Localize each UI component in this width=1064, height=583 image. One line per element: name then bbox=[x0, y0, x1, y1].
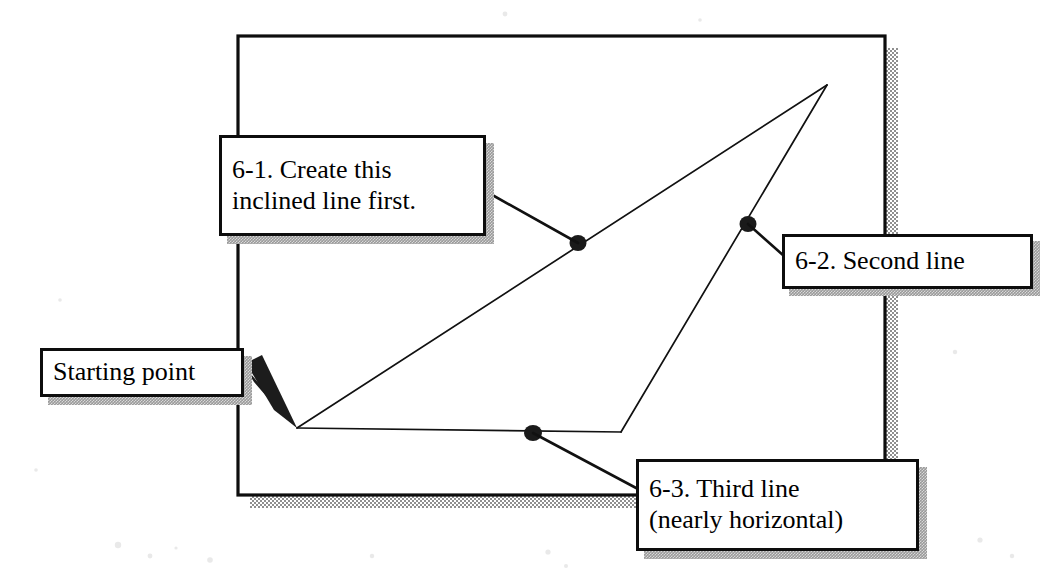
callout-leader-lines bbox=[487, 192, 784, 489]
callout-6-3: 6-3. Third line (nearly horizontal) bbox=[636, 459, 919, 551]
diagram-canvas: 6-1. Create this inclined line first. 6-… bbox=[0, 0, 1064, 583]
leader-6-1 bbox=[487, 192, 578, 243]
callout-6-3-text: 6-3. Third line (nearly horizontal) bbox=[639, 474, 916, 535]
callout-6-1: 6-1. Create this inclined line first. bbox=[219, 135, 486, 236]
callout-6-2-text: 6-2. Second line bbox=[785, 246, 1030, 277]
vertex-nodes bbox=[524, 216, 757, 441]
leader-6-3 bbox=[533, 433, 638, 489]
leader-6-2 bbox=[748, 224, 784, 256]
callout-starting-point-text: Starting point bbox=[43, 357, 241, 388]
callout-6-2: 6-2. Second line bbox=[782, 234, 1033, 289]
callout-starting-point: Starting point bbox=[40, 348, 244, 397]
callout-6-1-text: 6-1. Create this inclined line first. bbox=[222, 155, 483, 216]
third-line-6-3 bbox=[297, 428, 621, 432]
